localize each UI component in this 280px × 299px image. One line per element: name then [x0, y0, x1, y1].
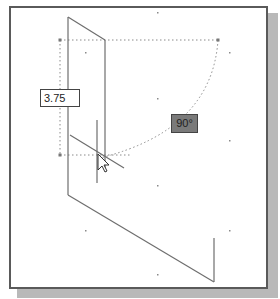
- construction-lines: [60, 40, 218, 158]
- anchor-point[interactable]: [59, 154, 62, 157]
- sketch-geometry: [0, 0, 280, 299]
- grid-dots: [85, 12, 231, 276]
- dimension-input-field[interactable]: 3.75: [40, 89, 80, 107]
- anchor-point[interactable]: [59, 39, 62, 42]
- sketch-lines[interactable]: [68, 17, 214, 282]
- angle-readout: 90°: [171, 114, 198, 133]
- anchor-point[interactable]: [217, 39, 220, 42]
